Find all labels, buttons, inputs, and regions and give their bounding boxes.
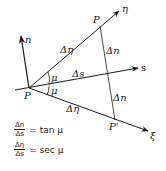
point-p-origin-label: P xyxy=(23,90,31,101)
eta-axis-label: η xyxy=(122,3,128,14)
fraction: Δn Δs xyxy=(14,121,25,138)
fraction: Δη Δs xyxy=(14,141,25,158)
point-p-upper-label: P xyxy=(92,14,100,25)
delta-eta-lower-label: Δη xyxy=(65,103,79,114)
delta-eta-upper-label: Δη xyxy=(59,44,73,55)
sec-mu-formula: Δη Δs = sec μ xyxy=(14,141,63,158)
denominator: Δs xyxy=(15,150,23,158)
mu-lower-arc xyxy=(47,86,49,95)
delta-n-lower-label: Δn xyxy=(112,92,127,103)
numerator: Δn xyxy=(14,121,25,130)
numerator: Δη xyxy=(14,141,25,150)
mu-upper-arc xyxy=(48,72,50,85)
denominator: Δs xyxy=(15,130,23,138)
s-axis-label: s xyxy=(141,62,146,73)
formula-rhs: = tan μ xyxy=(29,125,63,135)
mu-lower-label: μ xyxy=(51,85,58,96)
delta-n-upper-label: Δn xyxy=(105,45,120,56)
delta-s-label: Δs xyxy=(71,68,84,79)
formula-rhs: = sec μ xyxy=(29,145,63,155)
point-p-prime-label: P' xyxy=(108,121,118,132)
tan-mu-formula: Δn Δs = tan μ xyxy=(14,121,63,138)
n-axis-label: n xyxy=(25,34,31,45)
xi-axis-label: ξ xyxy=(150,130,156,141)
mu-upper-label: μ xyxy=(51,72,58,83)
